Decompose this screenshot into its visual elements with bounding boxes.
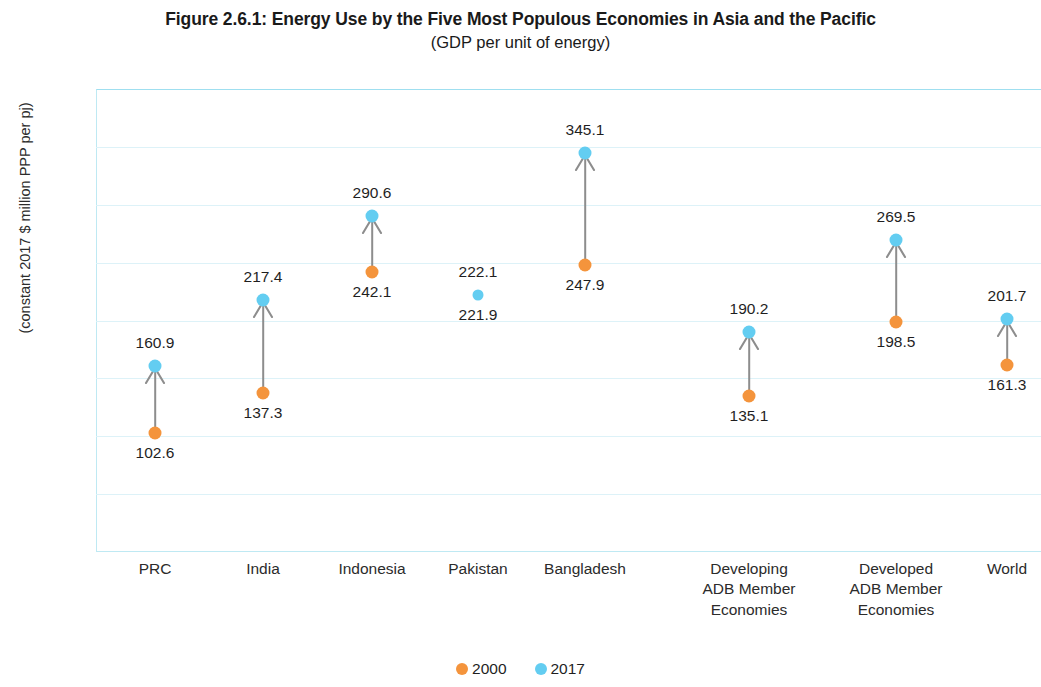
legend-label: 2000 — [472, 660, 506, 678]
legend-label: 2017 — [551, 660, 585, 678]
figure-container: Figure 2.6.1: Energy Use by the Five Mos… — [0, 0, 1041, 687]
data-label-2017: 160.9 — [136, 334, 175, 352]
data-label-2017: 201.7 — [988, 287, 1027, 305]
legend-swatch-dot-icon — [456, 663, 468, 675]
data-point-2000[interactable] — [1001, 359, 1014, 372]
x-axis-tick-label-line: World — [922, 559, 1041, 579]
plot-area: 050100150200250300350400 160.9102.6217.4… — [96, 89, 1041, 552]
x-axis-tick-label-line: Economies — [664, 600, 834, 620]
data-label-2000: 137.3 — [244, 404, 283, 422]
x-axis-tick-label: DevelopingADB MemberEconomies — [664, 559, 834, 620]
legend-swatch-dot-icon — [535, 663, 547, 675]
data-label-2000: 221.9 — [459, 306, 498, 324]
data-point-2000[interactable] — [743, 389, 756, 402]
data-label-2017: 290.6 — [353, 184, 392, 202]
legend: 20002017 — [0, 660, 1041, 678]
data-point-2000[interactable] — [579, 259, 592, 272]
figure-title: Figure 2.6.1: Energy Use by the Five Mos… — [0, 9, 1041, 31]
data-point-2017[interactable] — [743, 325, 756, 338]
gridline — [96, 147, 1041, 148]
data-point-2017[interactable] — [257, 294, 270, 307]
gridline — [96, 494, 1041, 495]
x-axis-tick-label-line: Economies — [811, 600, 981, 620]
title-block: Figure 2.6.1: Energy Use by the Five Mos… — [0, 9, 1041, 53]
data-point-2000[interactable] — [257, 387, 270, 400]
data-label-2017: 222.1 — [459, 263, 498, 281]
data-point-2017[interactable] — [473, 289, 484, 300]
change-connector-line — [584, 157, 586, 266]
gridline — [96, 378, 1041, 379]
x-axis-tick-label: Bangladesh — [500, 559, 670, 579]
legend-item[interactable]: 2000 — [456, 660, 506, 678]
x-axis-tick-label-line: ADB Member — [664, 579, 834, 599]
data-point-2000[interactable] — [149, 427, 162, 440]
data-point-2000[interactable] — [890, 316, 903, 329]
data-label-2000: 242.1 — [353, 283, 392, 301]
data-label-2000: 135.1 — [730, 407, 769, 425]
x-axis-tick-label-line: Bangladesh — [500, 559, 670, 579]
data-label-2000: 247.9 — [566, 276, 605, 294]
legend-item[interactable]: 2017 — [535, 660, 585, 678]
x-axis-tick-label-line: ADB Member — [811, 579, 981, 599]
data-point-2000[interactable] — [366, 265, 379, 278]
data-point-2017[interactable] — [579, 146, 592, 159]
data-label-2017: 269.5 — [877, 208, 916, 226]
data-label-2017: 190.2 — [730, 300, 769, 318]
data-label-2017: 217.4 — [244, 268, 283, 286]
data-label-2000: 198.5 — [877, 333, 916, 351]
data-label-2000: 161.3 — [988, 376, 1027, 394]
data-label-2017: 345.1 — [566, 121, 605, 139]
gridline — [96, 436, 1041, 437]
data-point-2017[interactable] — [1001, 312, 1014, 325]
gridline — [96, 263, 1041, 264]
data-point-2017[interactable] — [890, 234, 903, 247]
figure-subtitle: (GDP per unit of energy) — [0, 32, 1041, 53]
x-axis-tick-label: World — [922, 559, 1041, 579]
data-label-2000: 102.6 — [136, 444, 175, 462]
y-axis-title: (constant 2017 $ million PPP per pj) — [17, 18, 33, 418]
data-point-2017[interactable] — [149, 359, 162, 372]
data-point-2017[interactable] — [366, 209, 379, 222]
x-axis-tick-label-line: Developing — [664, 559, 834, 579]
gridline — [96, 205, 1041, 206]
